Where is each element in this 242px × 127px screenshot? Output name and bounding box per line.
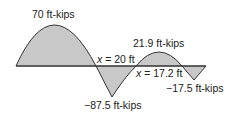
label-max-negative-1: −87.5 ft-kips: [84, 100, 142, 111]
positive-moment-region-1: [16, 25, 96, 66]
negative-moment-region-2: [182, 66, 206, 80]
label-zero-crossing-2-value: = 17.2 ft: [141, 67, 182, 79]
positive-moment-region-2: [136, 52, 182, 66]
label-max-negative-2: −17.5 ft-kips: [166, 83, 224, 94]
negative-moment-region-1: [96, 66, 136, 97]
label-zero-crossing-1: x = 20 ft: [97, 54, 135, 65]
label-max-positive-1: 70 ft-kips: [32, 9, 75, 20]
label-max-positive-2: 21.9 ft-kips: [133, 38, 184, 49]
label-zero-crossing-1-value: = 20 ft: [102, 53, 134, 65]
label-zero-crossing-2: x = 17.2 ft: [136, 68, 182, 79]
